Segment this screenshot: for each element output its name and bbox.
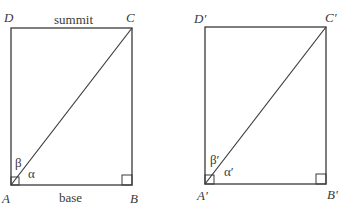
vertex-label-a-prime: A′ xyxy=(196,188,208,203)
diagram-canvas: D C A B β α summit base D′ C′ A′ B′ β′ α… xyxy=(0,0,346,211)
diagonal-ac-prime xyxy=(205,27,326,184)
vertex-label-d-prime: D′ xyxy=(193,11,206,26)
vertex-label-b: B xyxy=(130,191,138,206)
right-angle-mark-b xyxy=(122,175,132,185)
vertex-label-c: C xyxy=(126,10,135,25)
vertex-label-a: A xyxy=(1,191,10,206)
side-label-summit: summit xyxy=(54,12,93,27)
figure-primed: D′ C′ A′ B′ β′ α′ xyxy=(193,10,338,203)
vertex-label-d: D xyxy=(3,10,14,25)
vertex-label-b-prime: B′ xyxy=(327,187,338,202)
vertex-label-c-prime: C′ xyxy=(325,10,337,25)
angle-label-beta-prime: β′ xyxy=(210,152,220,167)
angle-label-alpha: α xyxy=(28,166,35,181)
figure-original: D C A B β α summit base xyxy=(1,10,138,206)
side-label-base: base xyxy=(59,190,82,205)
diagonal-ac xyxy=(11,28,132,185)
angle-label-beta: β xyxy=(15,155,22,170)
right-angle-mark-b-prime xyxy=(316,174,326,184)
angle-label-alpha-prime: α′ xyxy=(224,164,234,179)
